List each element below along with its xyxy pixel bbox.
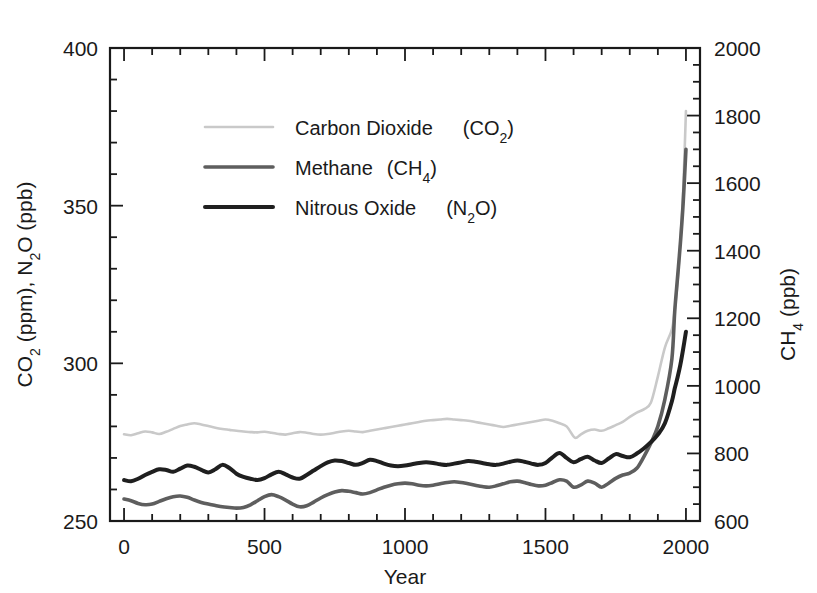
y-left-tick-label: 250	[63, 510, 98, 533]
x-tick-label: 0	[118, 535, 130, 558]
x-tick-label: 500	[247, 535, 282, 558]
y-left-tick-label: 300	[63, 352, 98, 375]
y-right-tick-label: 600	[714, 510, 749, 533]
x-axis-title: Year	[384, 565, 426, 588]
chart-canvas: 0500100015002000250300350400600800100012…	[0, 0, 817, 593]
x-tick-label: 2000	[663, 535, 710, 558]
y-right-tick-label: 2000	[714, 37, 761, 60]
y-left-tick-label: 350	[63, 195, 98, 218]
y-right-tick-label: 1200	[714, 307, 761, 330]
y-right-tick-label: 800	[714, 442, 749, 465]
y-right-tick-label: 1400	[714, 240, 761, 263]
y-right-tick-label: 1800	[714, 105, 761, 128]
greenhouse-gas-concentration-chart: 0500100015002000250300350400600800100012…	[0, 0, 817, 593]
y-left-tick-label: 400	[63, 37, 98, 60]
y-right-tick-label: 1600	[714, 172, 761, 195]
y-right-tick-label: 1000	[714, 375, 761, 398]
x-tick-label: 1500	[522, 535, 569, 558]
x-tick-label: 1000	[382, 535, 429, 558]
